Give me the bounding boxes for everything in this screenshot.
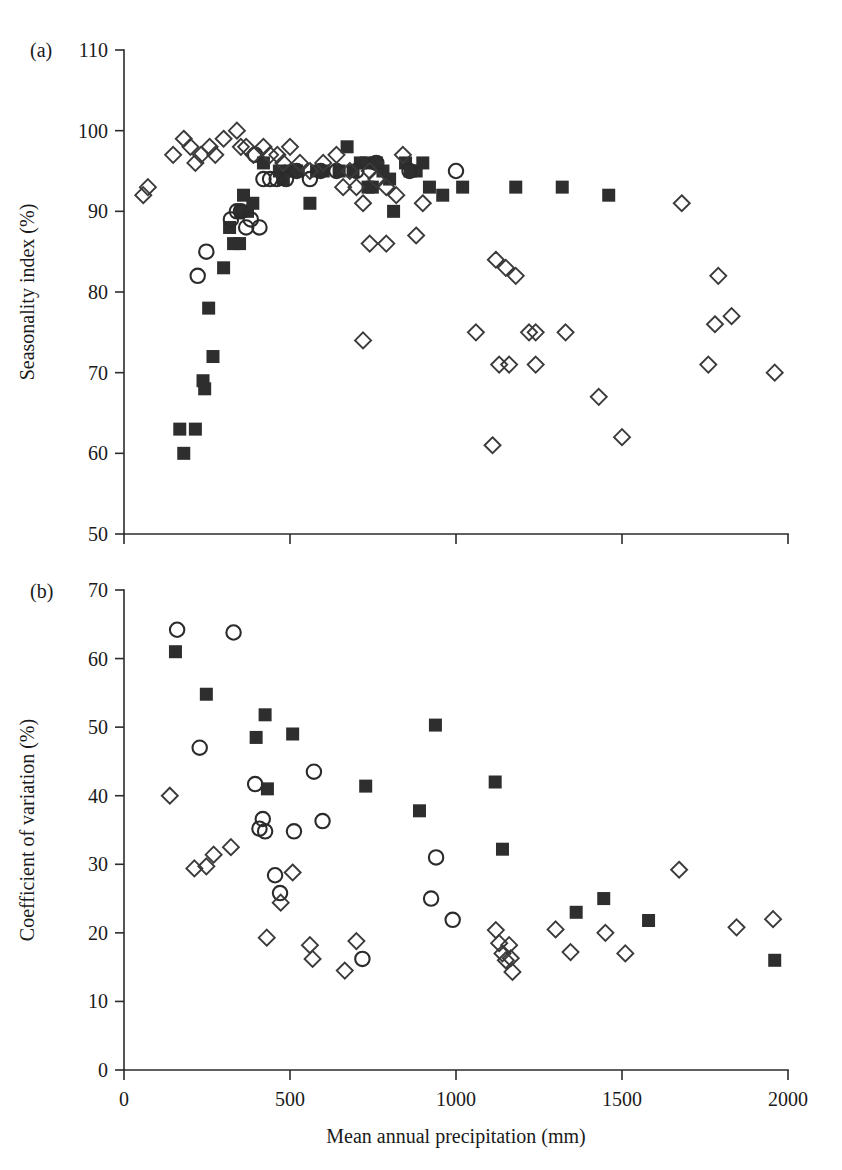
marker-filled-square	[642, 914, 655, 927]
y-tick-label-b-70: 70	[88, 579, 108, 601]
marker-filled-square	[496, 843, 509, 856]
marker-filled-square	[570, 906, 583, 919]
marker-filled-square	[429, 719, 442, 732]
marker-filled-square	[233, 237, 246, 250]
y-tick-label-a-50: 50	[88, 523, 108, 545]
scatter-figure: (a) 5060708090100110 Seasonality index (…	[0, 0, 842, 1170]
x-tick-label-1000: 1000	[436, 1088, 476, 1110]
panel-b-label: (b)	[30, 580, 53, 603]
marker-filled-square	[250, 731, 263, 744]
y-tick-label-a-80: 80	[88, 281, 108, 303]
marker-filled-square	[198, 382, 211, 395]
y-tick-label-a-70: 70	[88, 362, 108, 384]
marker-filled-square	[173, 423, 186, 436]
marker-filled-square	[286, 728, 299, 741]
y-tick-label-b-10: 10	[88, 990, 108, 1012]
marker-filled-square	[768, 954, 781, 967]
marker-filled-square	[597, 892, 610, 905]
marker-filled-square	[359, 780, 372, 793]
x-axis-title: Mean annual precipitation (mm)	[326, 1125, 585, 1148]
marker-filled-square	[189, 423, 202, 436]
marker-filled-square	[206, 350, 219, 363]
y-tick-label-b-30: 30	[88, 853, 108, 875]
marker-filled-square	[303, 197, 316, 210]
y-tick-label-a-60: 60	[88, 442, 108, 464]
x-tick-label-1500: 1500	[602, 1088, 642, 1110]
y-tick-label-a-110: 110	[79, 39, 108, 61]
marker-filled-square	[202, 302, 215, 315]
panel-a-y-axis-title: Seasonality index (%)	[16, 204, 39, 381]
y-tick-label-a-90: 90	[88, 200, 108, 222]
y-tick-label-b-60: 60	[88, 648, 108, 670]
marker-filled-square	[217, 261, 230, 274]
marker-filled-square	[387, 205, 400, 218]
y-tick-label-b-0: 0	[98, 1059, 108, 1081]
y-tick-label-b-40: 40	[88, 785, 108, 807]
marker-filled-square	[423, 181, 436, 194]
y-tick-label-b-50: 50	[88, 716, 108, 738]
marker-filled-square	[602, 189, 615, 202]
marker-filled-square	[509, 181, 522, 194]
marker-filled-square	[169, 645, 182, 658]
figure-container: (a) 5060708090100110 Seasonality index (…	[0, 0, 842, 1170]
x-tick-label-500: 500	[275, 1088, 305, 1110]
marker-filled-square	[436, 189, 449, 202]
y-tick-label-a-100: 100	[78, 120, 108, 142]
marker-filled-square	[416, 156, 429, 169]
x-tick-label-0: 0	[119, 1088, 129, 1110]
marker-filled-square	[556, 181, 569, 194]
marker-filled-square	[456, 181, 469, 194]
y-tick-label-b-20: 20	[88, 922, 108, 944]
marker-filled-square	[259, 708, 272, 721]
marker-filled-square	[341, 140, 354, 153]
marker-filled-square	[413, 804, 426, 817]
marker-filled-square	[177, 447, 190, 460]
marker-filled-square	[200, 688, 213, 701]
marker-filled-square	[489, 776, 502, 789]
x-tick-label-2000: 2000	[768, 1088, 808, 1110]
panel-b-y-axis-title: Coefficient of variation (%)	[16, 719, 39, 941]
panel-a-label: (a)	[30, 39, 52, 62]
